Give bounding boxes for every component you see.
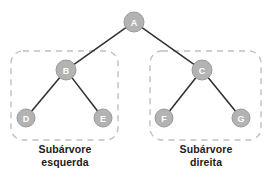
tree-node-g[interactable]: G <box>232 109 250 127</box>
node-label-g: G <box>237 114 244 124</box>
tree-node-d[interactable]: D <box>17 109 35 127</box>
tree-diagram: ABCDEFG Subárvore esquerda Subárvore dir… <box>0 0 273 184</box>
tree-node-b[interactable]: B <box>56 60 76 80</box>
subtree-caption-right-line2: direita <box>150 156 262 169</box>
edge-b-e <box>71 77 98 112</box>
edge-a-b <box>73 27 126 65</box>
edge-b-d <box>31 77 60 112</box>
edge-c-g <box>208 77 236 112</box>
subtree-caption-right-line1: Subárvore <box>150 143 262 156</box>
node-label-b: B <box>63 66 70 76</box>
subtree-caption-left-line2: esquerda <box>11 156 119 169</box>
tree-node-c[interactable]: C <box>192 60 212 80</box>
subtree-caption-right: Subárvore direita <box>150 143 262 169</box>
tree-node-f[interactable]: F <box>155 109 173 127</box>
node-label-f: F <box>161 114 167 124</box>
subtree-caption-left-line1: Subárvore <box>11 143 119 156</box>
edge-c-f <box>169 77 196 112</box>
node-label-e: E <box>100 114 106 124</box>
node-label-a: A <box>131 18 138 28</box>
subtree-caption-left: Subárvore esquerda <box>11 143 119 169</box>
node-label-d: D <box>23 114 30 124</box>
edge-a-c <box>141 27 194 65</box>
node-label-c: C <box>199 66 206 76</box>
tree-node-a[interactable]: A <box>124 12 144 32</box>
tree-node-e[interactable]: E <box>94 109 112 127</box>
node-group: ABCDEFG <box>17 12 250 127</box>
